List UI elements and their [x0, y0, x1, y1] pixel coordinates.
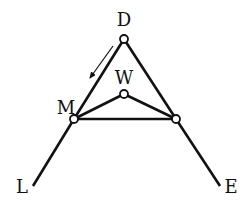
label-M: M [57, 97, 75, 118]
linkage-diagram: D W M L E [0, 0, 251, 205]
label-E: E [224, 176, 237, 197]
label-D: D [117, 9, 131, 30]
label-L: L [16, 176, 28, 197]
joint-W [120, 90, 128, 98]
joint-R [172, 115, 180, 123]
leg-R-E [176, 119, 220, 186]
leg-M-L [33, 119, 74, 186]
joint-D [120, 35, 128, 43]
label-W: W [115, 67, 134, 88]
